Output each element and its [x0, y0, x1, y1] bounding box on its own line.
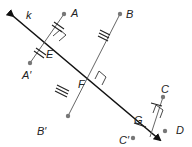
- label-f: F: [78, 79, 85, 90]
- label-b-prime: B′: [37, 126, 46, 137]
- label-g: G: [134, 115, 143, 126]
- label-a: A: [71, 8, 78, 19]
- label-c: C: [161, 84, 169, 95]
- label-k: k: [26, 10, 32, 21]
- label-b: B: [126, 9, 133, 20]
- points: [28, 12, 167, 140]
- right-angle-e: [53, 30, 66, 41]
- label-e: E: [46, 49, 53, 60]
- label-d: D: [176, 125, 184, 136]
- label-a-prime: A′: [22, 70, 31, 81]
- right-angle-f: [95, 71, 106, 85]
- label-c-prime: C′: [119, 135, 129, 146]
